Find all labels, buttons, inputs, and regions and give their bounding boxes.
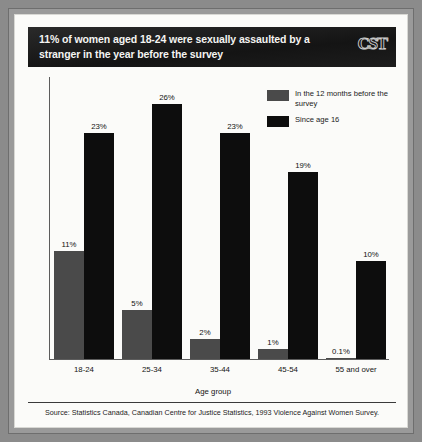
cst-logo: CST <box>358 34 387 54</box>
bar-series2 <box>220 133 250 359</box>
bar-value-label: 26% <box>146 93 188 102</box>
plot-area: 11% 23% 18-24 5% <box>35 77 391 367</box>
bar-wrapper: 26% <box>152 84 182 359</box>
bar-series2 <box>84 133 114 359</box>
bar-groups: 11% 23% 18-24 5% <box>50 84 390 359</box>
bar-series2 <box>288 172 318 359</box>
header-band: 11% of women aged 18-24 were sexually as… <box>28 27 396 67</box>
bar-series1 <box>190 339 220 359</box>
bar-series1 <box>122 310 152 359</box>
bar-group: 0.1% 10% 55 and over <box>322 84 390 359</box>
x-tick-label: 55 and over <box>312 365 400 374</box>
bar-value-label: 23% <box>214 122 256 131</box>
bar-wrapper: 23% <box>220 84 250 359</box>
bar-series1 <box>326 358 356 360</box>
source-note-text: Source: Statistics Canada, Canadian Cent… <box>28 408 396 417</box>
x-axis-line <box>49 359 389 360</box>
chart-card: 11% of women aged 18-24 were sexually as… <box>14 14 408 428</box>
bar-series1 <box>258 349 288 359</box>
bar-series1 <box>54 251 84 359</box>
bar-series2 <box>152 104 182 359</box>
bar-wrapper: 19% <box>288 84 318 359</box>
x-axis-title: Age group <box>35 387 391 396</box>
bar-wrapper: 5% <box>122 84 152 359</box>
bar-wrapper: 1% <box>258 84 288 359</box>
source-note: Source: Statistics Canada, Canadian Cent… <box>28 402 396 417</box>
bar-group: 2% 23% 35-44 <box>186 84 254 359</box>
page-title: 11% of women aged 18-24 were sexually as… <box>39 32 319 61</box>
bar-value-label: 23% <box>78 122 120 131</box>
bar-group: 1% 19% 45-54 <box>254 84 322 359</box>
bar-wrapper: 23% <box>84 84 114 359</box>
bar-wrapper: 0.1% <box>326 84 356 359</box>
bar-group: 5% 26% 25-34 <box>118 84 186 359</box>
bar-series2 <box>356 261 386 359</box>
bar-group: 11% 23% 18-24 <box>50 84 118 359</box>
bar-value-label: 19% <box>282 161 324 170</box>
bar-value-label: 10% <box>350 250 392 259</box>
bar-wrapper: 10% <box>356 84 386 359</box>
poster-frame: 11% of women aged 18-24 were sexually as… <box>0 0 422 442</box>
